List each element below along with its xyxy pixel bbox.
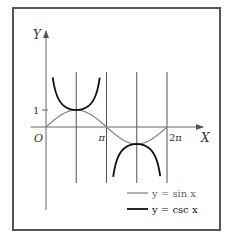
- x-tick-label-pi: π: [97, 132, 105, 143]
- y-axis-label: Y: [33, 28, 42, 42]
- x-tick-label-2pi: 2π: [169, 132, 182, 143]
- legend-label-csc: y = csc x: [151, 204, 198, 215]
- legend-label-sin: y = sin x: [151, 188, 196, 199]
- x-axis-label: X: [200, 131, 210, 145]
- origin-label: O: [34, 132, 43, 145]
- legend: y = sin x y = csc x: [127, 188, 198, 215]
- chart-canvas: Y X O π 2π 1 y = sin x y = csc x: [0, 0, 229, 239]
- y-tick-label-1: 1: [33, 105, 39, 116]
